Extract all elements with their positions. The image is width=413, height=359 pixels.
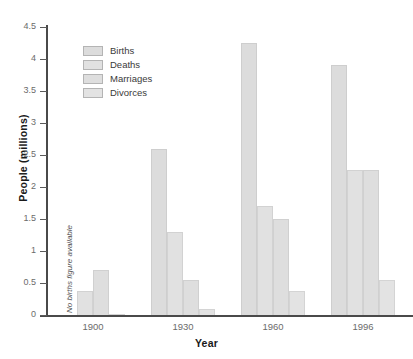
x-tick-label: 1930 — [153, 322, 213, 332]
y-tick — [40, 91, 47, 92]
bar-divorces-1930 — [199, 309, 215, 315]
legend-swatch-icon — [83, 46, 103, 56]
legend-label: Marriages — [110, 74, 152, 84]
legend-swatch-icon — [83, 74, 103, 84]
x-axis-title: Year — [0, 337, 413, 349]
y-tick-label: 4 — [31, 54, 36, 63]
y-tick — [40, 27, 47, 28]
y-tick-label: 1 — [31, 246, 36, 255]
bar-marriages-1900 — [93, 270, 109, 315]
y-tick — [40, 187, 47, 188]
bar-deaths-1900 — [77, 291, 93, 315]
bar-births-1960 — [241, 43, 257, 315]
y-tick — [40, 59, 47, 60]
legend-label: Divorces — [110, 88, 147, 98]
y-tick — [40, 155, 47, 156]
y-tick — [40, 251, 47, 252]
x-axis-line — [40, 315, 413, 317]
x-tick-label: 1996 — [333, 322, 393, 332]
y-tick-label: 2 — [31, 182, 36, 191]
legend-swatch-icon — [83, 60, 103, 70]
bar-marriages-1960 — [273, 219, 289, 315]
y-tick — [40, 315, 47, 316]
bar-deaths-1996 — [347, 170, 363, 315]
y-tick — [40, 283, 47, 284]
bar-births-1996 — [331, 65, 347, 315]
bar-chart: People (millions) 00.511.522.533.544.5 N… — [0, 0, 413, 359]
legend-label: Deaths — [110, 60, 140, 70]
y-tick-label: 0.5 — [23, 278, 36, 287]
bar-divorces-1960 — [289, 291, 305, 315]
legend-label: Births — [110, 46, 134, 56]
y-tick-label: 3 — [31, 118, 36, 127]
y-tick-label: 3.5 — [23, 86, 36, 95]
bar-deaths-1960 — [257, 206, 273, 315]
y-tick-label: 2.5 — [23, 150, 36, 159]
y-tick-label: 4.5 — [23, 22, 36, 31]
legend-item-deaths: Deaths — [83, 58, 152, 71]
bar-marriages-1996 — [363, 170, 379, 315]
chart-legend: BirthsDeathsMarriagesDivorces — [83, 44, 152, 100]
legend-item-births: Births — [83, 44, 152, 57]
bar-deaths-1930 — [167, 232, 183, 315]
bar-divorces-1900 — [109, 314, 125, 315]
x-tick-label: 1960 — [243, 322, 303, 332]
y-tick — [40, 219, 47, 220]
y-tick-label: 1.5 — [23, 214, 36, 223]
x-tick-label: 1900 — [63, 322, 123, 332]
y-tick-label: 0 — [31, 310, 36, 319]
legend-item-marriages: Marriages — [83, 72, 152, 85]
legend-item-divorces: Divorces — [83, 86, 152, 99]
bar-divorces-1996 — [379, 280, 395, 315]
bar-annotation: No births figure available — [66, 225, 74, 313]
bar-marriages-1930 — [183, 280, 199, 315]
legend-swatch-icon — [83, 88, 103, 98]
y-tick — [40, 123, 47, 124]
bar-births-1930 — [151, 149, 167, 315]
